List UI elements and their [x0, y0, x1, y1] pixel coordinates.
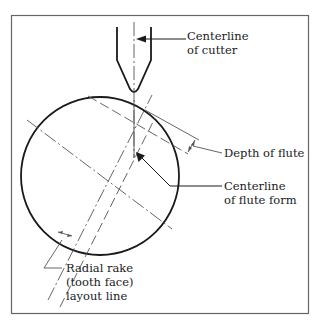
leader-depth-of-flute	[193, 146, 222, 153]
label-line: of flute form	[224, 193, 297, 207]
label-centerline-of-cutter: Centerline of cutter	[187, 29, 249, 57]
figure-frame	[12, 16, 309, 314]
label-depth-of-flute: Depth of flute	[224, 146, 304, 160]
label-centerline-of-flute-form: Centerline of flute form	[224, 179, 297, 207]
leader-centerline-flute-form	[141, 157, 222, 186]
leader-radial-rake	[44, 240, 62, 268]
label-line: Depth of flute	[224, 146, 304, 160]
depth-flute-outer-line	[145, 110, 199, 140]
arrow-icon	[136, 152, 145, 162]
cutter-blank-circle	[21, 97, 179, 255]
label-line: of cutter	[187, 43, 249, 57]
label-line: Centerline	[224, 179, 297, 193]
depth-flute-dashed-line	[88, 96, 188, 154]
label-line: layout line	[66, 289, 133, 303]
dim-arrow-icon	[191, 140, 195, 146]
label-radial-rake: Radial rake (tooth face) layout line	[66, 261, 133, 303]
flute-layout-diagram	[0, 0, 318, 326]
label-line: (tooth face)	[66, 275, 133, 289]
diametral-centerline	[27, 120, 172, 229]
label-line: Centerline	[187, 29, 249, 43]
label-line: Radial rake	[66, 261, 133, 275]
arrow-icon	[136, 36, 146, 43]
